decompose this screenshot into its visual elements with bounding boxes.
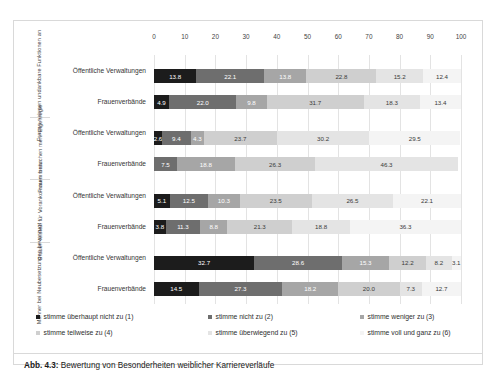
bar-segment: 30.2 [277, 131, 370, 145]
caption-number: Abb. 4.3: [24, 361, 59, 370]
group-label-column: Frauen nehmen undankbare Funktionen anFr… [30, 55, 50, 304]
legend-label: stimme voll und ganz zu (6) [368, 329, 451, 336]
figure-page: Frauen nehmen undankbare Funktionen anFr… [0, 0, 497, 378]
chart-plot-area: Frauen nehmen undankbare Funktionen anFr… [30, 29, 468, 304]
legend-label: stimme nicht zu (2) [216, 313, 273, 320]
bar-row: 3.811.38.821.318.836.3 [154, 220, 461, 234]
category-label: Öffentliche Verwaltungen [50, 180, 150, 211]
legend-item-s4[interactable]: stimme teilweise zu (4) [36, 329, 208, 336]
bar-segment: 32.7 [154, 256, 254, 270]
bar-segment: 7.3 [400, 282, 422, 296]
bar-segment: 4.3 [191, 131, 204, 145]
bar-segment: 14.5 [154, 282, 199, 296]
legend-swatch-icon [36, 315, 40, 319]
category-label: Frauenverbände [50, 273, 150, 304]
bar-segment: 15.2 [376, 69, 423, 83]
bar-segment: 2.6 [154, 131, 162, 145]
legend-row: stimme teilweise zu (4)stimme überwiegen… [36, 329, 466, 336]
bar-segment: 18.2 [282, 282, 338, 296]
x-tick-100: 100 [456, 33, 467, 40]
x-tick-50: 50 [304, 33, 311, 40]
bar-segment: 13.8 [264, 69, 306, 83]
legend-swatch-icon [208, 315, 212, 319]
bar-segment: 5.1 [154, 194, 170, 208]
bar-segment: 26.3 [235, 157, 316, 171]
bar-segment: 9.8 [236, 95, 266, 109]
group-label-3: Männer bei Neubesetzungen bevorzugt [30, 242, 50, 305]
x-axis-tick-labels: 0102030405060708090100 [154, 33, 468, 51]
bar-segment: 29.5 [369, 131, 460, 145]
bar-segment: 12.2 [389, 256, 426, 270]
bar-row: 2.69.44.323.730.229.5 [154, 131, 461, 145]
figure-container: Frauen nehmen undankbare Funktionen anFr… [13, 20, 483, 365]
gridline-100 [461, 55, 462, 304]
bar-segment: 22.1 [196, 69, 264, 83]
x-tick-0: 0 [152, 33, 156, 40]
x-tick-30: 30 [243, 33, 250, 40]
bar-segment: 15.3 [342, 256, 389, 270]
x-tick-90: 90 [427, 33, 434, 40]
category-label: Öffentliche Verwaltungen [50, 55, 150, 86]
bar-row: 4.922.09.831.718.313.4 [154, 95, 461, 109]
legend-item-s5[interactable]: stimme überwiegend zu (5) [208, 329, 360, 336]
x-tick-10: 10 [181, 33, 188, 40]
category-label-column: Öffentliche VerwaltungenFrauenverbändeÖf… [50, 55, 150, 304]
category-label: Öffentliche Verwaltungen [50, 242, 150, 273]
group-label-text: Männer bei Neubesetzungen bevorzugt [36, 223, 43, 324]
bar-segment: 12.4 [423, 69, 461, 83]
bar-segment: 46.3 [315, 157, 457, 171]
legend-item-s2[interactable]: stimme nicht zu (2) [208, 313, 360, 320]
bar-segment: 27.3 [199, 282, 283, 296]
bar-segment: 28.6 [254, 256, 342, 270]
bar-segment: 21.3 [227, 220, 292, 234]
bar-segment: 36.3 [350, 220, 461, 234]
bar-segment: 26.5 [312, 194, 393, 208]
bar-segment: 9.4 [162, 131, 191, 145]
bar-segment: 22.8 [306, 69, 376, 83]
bar-segment: 13.8 [154, 69, 196, 83]
x-tick-20: 20 [212, 33, 219, 40]
legend-swatch-icon [360, 315, 364, 319]
bar-rows: 13.822.113.822.815.212.44.922.09.831.718… [154, 55, 461, 304]
bars-region: 13.822.113.822.815.212.44.922.09.831.718… [154, 55, 461, 304]
legend-label: stimme weniger zu (3) [368, 313, 435, 320]
legend-swatch-icon [208, 331, 212, 335]
legend-label: stimme überwiegend zu (5) [216, 329, 298, 336]
legend-swatch-icon [36, 331, 40, 335]
bar-segment: 18.8 [292, 220, 350, 234]
caption-divider [14, 353, 482, 354]
legend-item-s3[interactable]: stimme weniger zu (3) [360, 313, 434, 320]
bar-segment: 3.8 [154, 220, 166, 234]
bar-row: 7.518.826.346.3 [154, 157, 461, 171]
bar-segment: 4.9 [154, 95, 169, 109]
bar-row: 32.728.615.312.28.23.1 [154, 256, 461, 270]
bar-row: 13.822.113.822.815.212.4 [154, 69, 461, 83]
bar-segment: 12.7 [422, 282, 461, 296]
x-tick-80: 80 [396, 33, 403, 40]
bar-segment: 31.7 [267, 95, 364, 109]
bar-row: 14.527.318.220.07.312.7 [154, 282, 461, 296]
bar-segment: 23.7 [204, 131, 277, 145]
figure-caption: Abb. 4.3: Bewertung von Besonderheiten w… [24, 361, 274, 370]
bar-segment: 23.5 [240, 194, 312, 208]
caption-text: Bewertung von Besonderheiten weiblicher … [59, 361, 275, 370]
bar-segment: 20.0 [338, 282, 399, 296]
bar-segment: 12.5 [170, 194, 208, 208]
legend-item-s6[interactable]: stimme voll und ganz zu (6) [360, 329, 451, 336]
bar-row: 5.112.510.323.526.522.1 [154, 194, 461, 208]
x-tick-60: 60 [335, 33, 342, 40]
chart-legend: stimme überhaupt nicht zu (1)stimme nich… [36, 313, 466, 345]
bar-segment: 11.3 [166, 220, 201, 234]
category-label: Frauenverbände [50, 148, 150, 179]
bar-segment: 8.8 [200, 220, 227, 234]
bar-segment: 3.1 [452, 256, 462, 270]
bar-segment: 10.3 [208, 194, 240, 208]
category-label: Frauenverbände [50, 86, 150, 117]
x-tick-40: 40 [273, 33, 280, 40]
legend-item-s1[interactable]: stimme überhaupt nicht zu (1) [36, 313, 208, 320]
legend-row: stimme überhaupt nicht zu (1)stimme nich… [36, 313, 466, 320]
bar-segment: 13.4 [420, 95, 461, 109]
bar-segment: 22.1 [393, 194, 461, 208]
bar-segment: 8.2 [426, 256, 451, 270]
category-label: Frauenverbände [50, 211, 150, 242]
